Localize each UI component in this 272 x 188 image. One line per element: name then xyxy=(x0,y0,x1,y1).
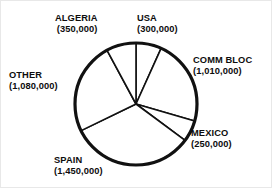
pie-label-spain-name: SPAIN xyxy=(54,155,82,165)
pie-label-other-name: OTHER xyxy=(9,70,42,80)
pie-label-comm-bloc-value: (1,010,000) xyxy=(193,66,252,77)
pie-chart-figure: ALGERIA (350,000) USA (300,000) COMM BLO… xyxy=(0,0,272,188)
pie-label-mexico: MEXICO (250,000) xyxy=(191,128,232,150)
pie-label-algeria-value: (350,000) xyxy=(55,24,98,35)
pie-label-mexico-value: (250,000) xyxy=(191,139,232,150)
pie-label-other: OTHER (1,080,000) xyxy=(9,70,58,92)
pie-label-comm-bloc-name: COMM BLOC xyxy=(193,55,252,65)
pie-label-usa-value: (300,000) xyxy=(137,24,178,35)
pie-label-algeria: ALGERIA (350,000) xyxy=(55,13,98,35)
pie-label-spain: SPAIN (1,450,000) xyxy=(54,155,103,177)
pie-label-usa-name: USA xyxy=(137,13,157,23)
pie-label-algeria-name: ALGERIA xyxy=(55,13,98,23)
pie-label-spain-value: (1,450,000) xyxy=(54,166,103,177)
pie-label-other-value: (1,080,000) xyxy=(9,81,58,92)
pie-label-comm-bloc: COMM BLOC (1,010,000) xyxy=(193,55,252,77)
pie-label-mexico-name: MEXICO xyxy=(191,128,228,138)
pie-label-usa: USA (300,000) xyxy=(137,13,178,35)
